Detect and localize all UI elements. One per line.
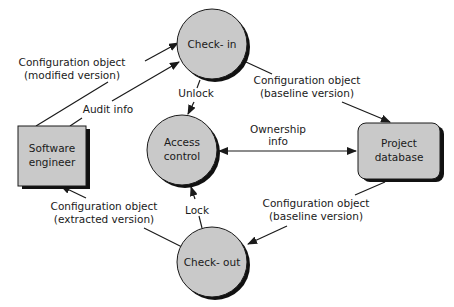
label-config-extracted-line2: (extracted version) <box>54 213 154 225</box>
access-control-label-line2: control <box>164 150 200 162</box>
label-config-baseline-out-line2: (baseline version) <box>269 210 363 222</box>
label-lock: Lock <box>185 204 210 216</box>
access-control-label-line1: Access <box>164 136 200 148</box>
label-ownership-line1: Ownership <box>250 123 306 135</box>
check-in-label: Check- in <box>188 38 237 50</box>
label-audit-info: Audit info <box>83 103 134 115</box>
check-out-label: Check- out <box>184 256 241 268</box>
label-config-modified-line2: (modified version) <box>24 69 120 81</box>
diagram-canvas: Configuration object (modified version) … <box>0 0 454 307</box>
node-check-in: Check- in <box>177 9 250 82</box>
project-database-label-line2: database <box>375 151 424 163</box>
software-engineer-label-line2: engineer <box>29 156 76 168</box>
label-config-modified-line1: Configuration object <box>19 56 126 68</box>
node-check-out: Check- out <box>177 227 250 300</box>
node-software-engineer: Software engineer <box>18 126 90 189</box>
label-unlock: Unlock <box>178 87 214 99</box>
node-project-database: Project database <box>358 123 444 182</box>
label-config-baseline-out-line1: Configuration object <box>263 197 370 209</box>
node-access-control: Access control <box>147 115 220 188</box>
software-engineer-label-line1: Software <box>29 142 75 154</box>
label-config-extracted-line1: Configuration object <box>51 200 158 212</box>
label-config-baseline-in-line2: (baseline version) <box>260 87 354 99</box>
label-ownership-line2: info <box>268 135 288 147</box>
project-database-label-line1: Project <box>381 137 417 149</box>
label-config-baseline-in-line1: Configuration object <box>254 74 361 86</box>
